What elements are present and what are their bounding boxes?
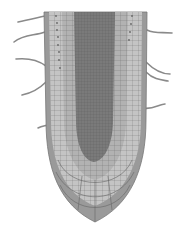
root-tip-diagram [0,0,180,230]
root-hairs-left [14,16,48,128]
